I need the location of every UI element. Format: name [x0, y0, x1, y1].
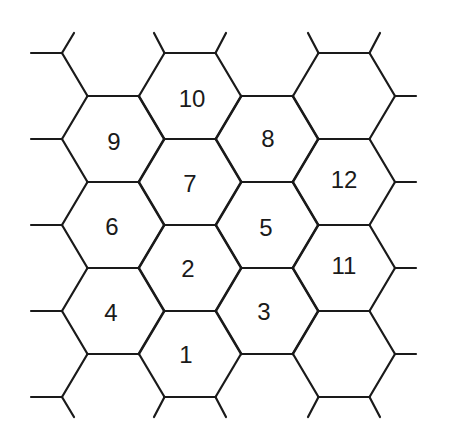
hex-edge-stub: [216, 33, 227, 53]
cell-label-11: 11: [332, 252, 357, 279]
hex-edge: [216, 268, 242, 311]
cell-label-5: 5: [259, 214, 272, 241]
hex-edge: [370, 182, 396, 225]
hex-edge: [293, 182, 319, 225]
hex-edge: [370, 268, 396, 311]
hex-edge: [293, 96, 319, 139]
hex-edge: [293, 311, 319, 354]
hex-edge: [370, 96, 396, 139]
hex-edge: [293, 354, 319, 397]
hex-edge-stub: [216, 397, 227, 417]
hex-edge: [139, 311, 165, 354]
cell-label-4: 4: [104, 299, 117, 326]
hex-edge: [370, 354, 396, 397]
hex-edge: [216, 139, 242, 182]
cell-label-1: 1: [179, 341, 192, 368]
cell-label-12: 12: [331, 166, 358, 193]
hex-edge-stub: [62, 354, 88, 397]
hex-edge: [62, 311, 88, 354]
hex-edge-stub: [62, 53, 88, 96]
cell-label-9: 9: [107, 128, 120, 155]
hex-edge-stub: [154, 33, 165, 53]
hex-edge-stub: [370, 33, 381, 53]
hex-edge-stub: [62, 33, 74, 53]
hex-edge: [370, 139, 396, 182]
hex-edge: [216, 225, 242, 268]
cell-label-7: 7: [183, 170, 196, 197]
hex-edge: [62, 225, 88, 268]
hex-edge: [139, 268, 165, 311]
hexagonal-grid-diagram: 1 2 3 4 5 6 7 8 9 10 11 12: [0, 0, 461, 443]
hex-edge: [293, 268, 319, 311]
hex-edge-stub: [308, 397, 319, 417]
hex-edge: [62, 139, 88, 182]
hex-edge-stub: [308, 33, 319, 53]
hex-edge: [62, 96, 88, 139]
hex-edge: [216, 96, 242, 139]
hex-edge: [216, 311, 242, 354]
hex-edge: [293, 139, 319, 182]
hex-edge: [62, 182, 88, 225]
hex-edge: [370, 225, 396, 268]
hex-edge: [370, 311, 396, 354]
hex-edge-stub: [154, 397, 165, 417]
hex-edge: [139, 96, 165, 139]
hex-edge-stub: [62, 397, 74, 417]
cell-label-6: 6: [105, 213, 118, 240]
hex-edge: [62, 268, 88, 311]
hex-edge: [139, 139, 165, 182]
cell-label-10: 10: [179, 85, 206, 112]
cell-label-2: 2: [181, 255, 194, 282]
hex-grid-lines: [31, 33, 416, 417]
hex-edge: [139, 225, 165, 268]
hex-edge: [293, 53, 319, 96]
hex-edge: [216, 182, 242, 225]
hex-edge: [216, 354, 242, 397]
cell-label-8: 8: [261, 125, 274, 152]
hex-edge: [139, 354, 165, 397]
hex-edge: [216, 53, 242, 96]
hex-edge: [293, 225, 319, 268]
hex-edge: [370, 53, 396, 96]
hex-edge: [139, 182, 165, 225]
cell-label-3: 3: [257, 298, 270, 325]
hex-edge: [139, 53, 165, 96]
hex-edge-stub: [370, 397, 381, 417]
